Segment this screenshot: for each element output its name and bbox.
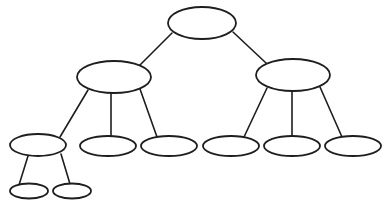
tree-edge-l1-left-to-l2-1 — [60, 90, 88, 137]
tree-edge-l1-right-to-l2-4 — [244, 88, 267, 137]
tree-node-l2-5 — [264, 136, 320, 156]
tree-edge-l1-right-to-l2-6 — [320, 87, 342, 137]
tree-node-l2-1 — [10, 134, 66, 156]
tree-edges — [19, 32, 342, 185]
tree-edge-l1-left-to-l2-3 — [140, 89, 157, 137]
tree-edge-root-to-l1-left — [140, 33, 172, 65]
tree-node-l2-4 — [203, 136, 259, 156]
tree-node-root — [168, 7, 236, 39]
tree-diagram — [0, 0, 386, 208]
tree-edge-root-to-l1-right — [233, 32, 266, 63]
tree-node-l1-left — [77, 61, 151, 93]
tree-node-l3-1 — [10, 184, 48, 199]
tree-node-l3-2 — [53, 184, 91, 199]
tree-node-l2-3 — [141, 136, 197, 156]
tree-node-l2-6 — [325, 136, 381, 156]
tree-node-l1-right — [256, 59, 330, 91]
tree-edge-l2-1-to-l3-2 — [61, 154, 70, 184]
tree-node-l2-2 — [80, 136, 136, 156]
tree-edge-l2-1-to-l3-1 — [19, 156, 28, 185]
